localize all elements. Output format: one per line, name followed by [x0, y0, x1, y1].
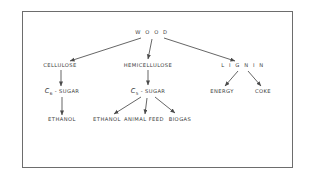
node-coke: COKE: [255, 89, 271, 94]
node-lignin: L I G N I N: [221, 63, 265, 68]
node-wood: W O O D: [135, 30, 168, 35]
node-animal-feed: ANIMAL FEED: [124, 117, 164, 122]
node-hemicellulose: HEMICELLULOSE: [124, 63, 173, 68]
node-cellulose: CELLULOSE: [43, 63, 77, 68]
c5-tail: - SUGAR: [139, 88, 166, 94]
c6-tail: - SUGAR: [53, 88, 80, 94]
node-biogas: BIOGAS: [169, 117, 192, 122]
figure-canvas: W O O D CELLULOSE HEMICELLULOSE L I G N …: [0, 0, 311, 179]
node-ethanol-hemicellulose: ETHANOL: [93, 117, 121, 122]
node-c5-sugar: C5 - SUGAR: [131, 88, 166, 96]
node-energy: ENERGY: [210, 89, 234, 94]
node-c6-sugar: C6 - SUGAR: [45, 88, 80, 96]
node-ethanol-cellulose: ETHANOL: [48, 117, 76, 122]
